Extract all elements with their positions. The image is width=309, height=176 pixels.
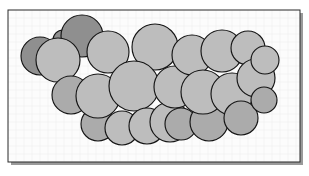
atom-sphere [251, 46, 279, 74]
molecular-model-figure [0, 0, 309, 176]
atom-sphere [109, 61, 159, 111]
molecular-model-canvas [0, 0, 309, 176]
atom-sphere [251, 87, 277, 113]
atom-sphere [36, 38, 80, 82]
